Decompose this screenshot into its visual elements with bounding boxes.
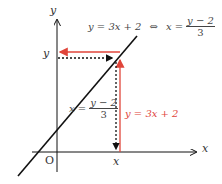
- y-axis-label: y: [50, 4, 56, 17]
- equivalence-symbol: ⇔: [150, 21, 158, 32]
- inverse-formula-lhs: x =: [166, 21, 183, 32]
- fraction-denominator: 3: [197, 27, 203, 38]
- x-tick-label: x: [113, 155, 119, 168]
- y-tick-label: y: [43, 47, 49, 60]
- forward-formula: y = 3x + 2: [88, 21, 142, 32]
- fraction-numerator: y − 2: [186, 15, 215, 27]
- inverse-numerator: y − 2: [89, 97, 118, 109]
- x-axis-label: x: [202, 142, 208, 155]
- inverse-lhs: x =: [69, 103, 86, 114]
- forward-equation: y = 3x + 2: [125, 108, 179, 119]
- inverse-equation: x = y − 23: [69, 97, 118, 120]
- origin-label: O: [45, 154, 54, 167]
- inverse-denominator: 3: [100, 109, 106, 120]
- top-equation: y = 3x + 2 ⇔ x = y − 23: [88, 15, 215, 38]
